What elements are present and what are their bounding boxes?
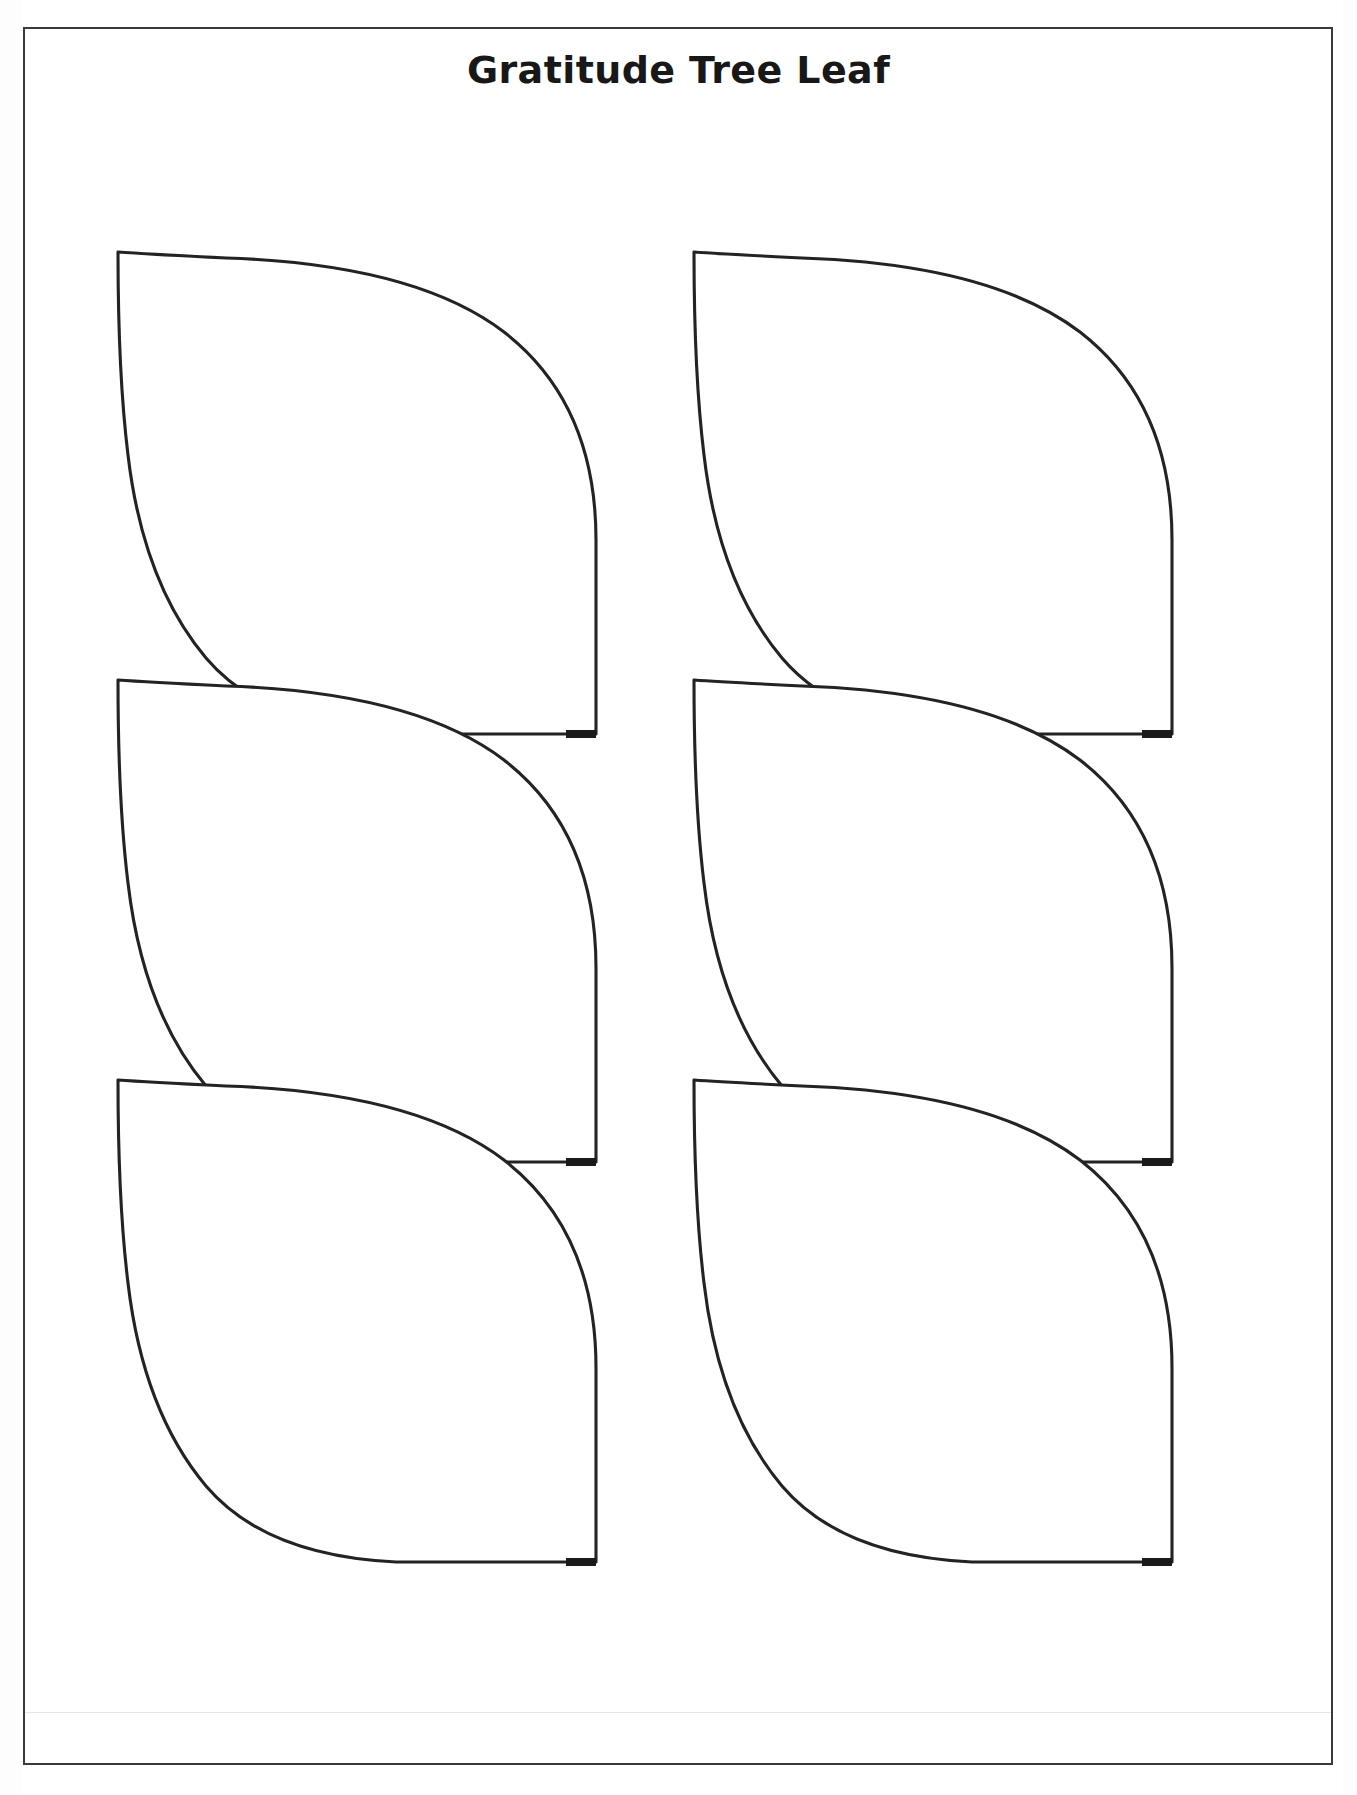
footer-rule xyxy=(25,1712,1331,1713)
leaf-template-1[interactable] xyxy=(96,240,616,740)
leaf-outline-icon xyxy=(96,240,616,740)
leaf-grid xyxy=(0,0,1357,1795)
leaf-template-6[interactable] xyxy=(672,1068,1192,1568)
leaf-outline-icon xyxy=(672,1068,1192,1568)
leaf-outline-icon xyxy=(672,240,1192,740)
leaf-template-5[interactable] xyxy=(96,1068,616,1568)
leaf-outline-icon xyxy=(96,1068,616,1568)
leaf-template-2[interactable] xyxy=(672,240,1192,740)
worksheet-page: Gratitude Tree Leaf xyxy=(0,0,1357,1795)
